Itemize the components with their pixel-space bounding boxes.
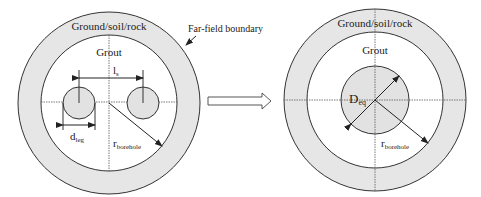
left-diagram: Ground/soil/rock Grout ls dleg rborehole	[18, 12, 200, 194]
borehole-equivalence-diagram: Ground/soil/rock Grout ls dleg rborehole…	[0, 0, 481, 197]
far-field-label: Far-field boundary	[188, 23, 263, 34]
right-grout-label: Grout	[362, 44, 388, 56]
left-grout-label: Grout	[96, 46, 122, 58]
left-ground-label: Ground/soil/rock	[71, 20, 147, 32]
right-diagram: Ground/soil/rock Grout Deq rborehole	[284, 9, 466, 191]
hollow-right-arrow-icon	[208, 93, 271, 109]
far-field-callout: Far-field boundary	[186, 23, 263, 45]
right-ground-label: Ground/soil/rock	[337, 17, 413, 29]
